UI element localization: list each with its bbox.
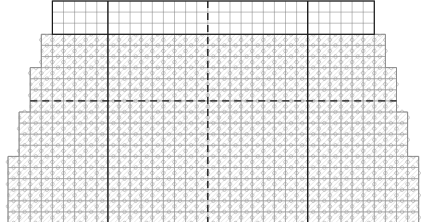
diagram-canvas — [0, 0, 421, 222]
hatching-layer — [8, 34, 419, 222]
layout-drawing — [0, 0, 421, 222]
plain-band-layer — [52, 1, 374, 34]
